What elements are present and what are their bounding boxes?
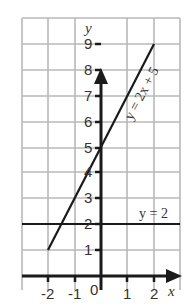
line-label-y-equals-2: y = 2 <box>139 206 168 221</box>
y-tick-label: 1 <box>84 241 92 258</box>
x-tick-label: -2 <box>41 285 54 302</box>
y-axis-label: y <box>83 20 92 36</box>
y-tick-labels: 9 8 7 6 5 4 3 2 1 <box>84 35 92 258</box>
y-tick-label: 8 <box>84 61 92 78</box>
y-tick-label: 5 <box>84 139 92 156</box>
y-tick-label: 2 <box>84 215 92 232</box>
y-tick-label: 3 <box>84 189 92 206</box>
x-tick-label: -1 <box>68 285 81 302</box>
y-tick-label: 9 <box>84 35 92 52</box>
origin-label: 0 <box>90 281 98 298</box>
y-tick-label: 7 <box>84 87 92 104</box>
y-tick-label: 4 <box>84 163 92 180</box>
x-tick-label: 2 <box>150 285 158 302</box>
y-axis <box>94 44 108 290</box>
coordinate-plane: 9 8 7 6 5 4 3 2 1 -2 -1 0 1 2 y x y = 2x… <box>0 0 192 308</box>
x-axis-label: x <box>167 283 175 299</box>
x-tick-label: 1 <box>123 285 131 302</box>
y-tick-label: 6 <box>84 113 92 130</box>
